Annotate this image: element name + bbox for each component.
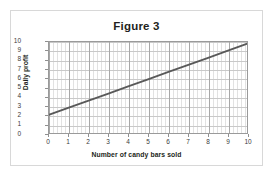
x-axis-tick-mark — [68, 134, 69, 137]
x-axis-tick-mark — [148, 134, 149, 137]
figure-frame: Figure 3 Daily profit Number of candy ba… — [10, 10, 263, 166]
x-axis-tick-mark — [248, 134, 249, 137]
y-axis-tick-label: 5 — [0, 84, 21, 91]
x-axis-tick-mark — [168, 134, 169, 137]
y-axis-tick-label: 3 — [0, 103, 21, 110]
y-axis-tick-label: 6 — [0, 75, 21, 82]
y-axis-tick-label: 1 — [0, 121, 21, 128]
x-axis-tick-mark — [188, 134, 189, 137]
x-axis-tick-label: 6 — [158, 139, 178, 146]
y-axis-tick-label: 4 — [0, 93, 21, 100]
y-axis-title: Daily profit — [22, 33, 29, 113]
page-title: Figure 3 — [11, 20, 262, 32]
x-axis-tick-label: 5 — [138, 139, 158, 146]
plot-area — [48, 41, 248, 134]
x-axis-tick-mark — [128, 134, 129, 137]
x-axis-tick-mark — [108, 134, 109, 137]
x-axis-tick-label: 0 — [38, 139, 58, 146]
x-axis-tick-mark — [228, 134, 229, 137]
x-axis-tick-label: 1 — [58, 139, 78, 146]
x-axis-tick-label: 2 — [78, 139, 98, 146]
x-axis-tick-mark — [48, 134, 49, 137]
y-axis-tick-label: 9 — [0, 47, 21, 54]
y-axis-tick-label: 10 — [0, 38, 21, 45]
y-axis-tick-label: 8 — [0, 56, 21, 63]
x-axis-tick-mark — [88, 134, 89, 137]
y-axis-tick-label: 7 — [0, 66, 21, 73]
x-axis-tick-label: 4 — [118, 139, 138, 146]
y-axis-tick-label: 0 — [0, 131, 21, 138]
x-axis-tick-label: 7 — [178, 139, 198, 146]
data-series-line — [49, 42, 247, 133]
x-axis-tick-label: 3 — [98, 139, 118, 146]
x-axis-title: Number of candy bars sold — [11, 151, 262, 158]
y-axis-tick-label: 2 — [0, 112, 21, 119]
x-axis-tick-mark — [208, 134, 209, 137]
x-axis-tick-label: 9 — [218, 139, 238, 146]
x-axis-tick-label: 8 — [198, 139, 218, 146]
x-axis-tick-label: 10 — [238, 139, 258, 146]
